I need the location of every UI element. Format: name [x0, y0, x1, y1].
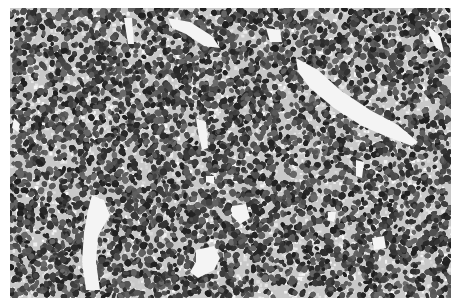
micrograph-canvas: [10, 8, 451, 298]
histology-micrograph: Grayscale histology micrograph showing d…: [10, 8, 451, 298]
